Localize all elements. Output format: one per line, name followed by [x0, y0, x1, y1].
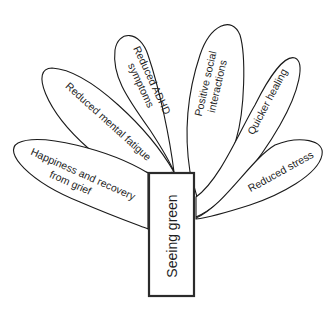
center-label: Seeing green	[164, 194, 180, 277]
seeing-green-diagram: Seeing green Happiness and recovery from…	[0, 0, 332, 313]
